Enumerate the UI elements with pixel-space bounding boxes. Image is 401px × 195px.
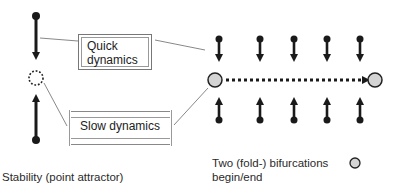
legend-bifurcation-icon bbox=[350, 158, 360, 168]
slow-dynamics-box: Slow dynamics bbox=[71, 111, 170, 145]
left-stability-column bbox=[29, 12, 43, 144]
slow-dynamics-label: Slow dynamics bbox=[80, 119, 160, 133]
bifurcation-end-circle bbox=[368, 73, 382, 87]
quick-dynamics-box: Quickdynamics bbox=[78, 34, 152, 70]
diagram-canvas bbox=[0, 0, 401, 195]
right-top-arrows bbox=[216, 36, 364, 59]
attractor-dotted-circle bbox=[29, 71, 43, 85]
bifurcation-legend-label: Two (fold-) bifurcations begin/end bbox=[212, 156, 328, 184]
quick-dynamics-label: Quickdynamics bbox=[87, 39, 138, 67]
right-bottom-arrows bbox=[216, 101, 364, 124]
stability-legend-label: Stability (point attractor) bbox=[2, 170, 123, 184]
bifurcation-start-circle bbox=[208, 73, 222, 87]
bottom-dot bbox=[32, 136, 40, 144]
